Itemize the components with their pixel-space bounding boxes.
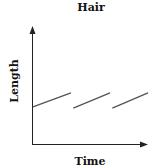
x-axis-arrow-icon [140, 142, 148, 148]
series-line-segment-2 [73, 93, 110, 108]
x-axis [32, 142, 148, 148]
y-axis-arrow-icon [30, 26, 36, 34]
series-line-segment-1 [33, 93, 71, 107]
y-axis [30, 26, 36, 145]
plot-area [0, 0, 157, 168]
data-series [33, 93, 148, 108]
series-line-segment-3 [112, 93, 148, 108]
